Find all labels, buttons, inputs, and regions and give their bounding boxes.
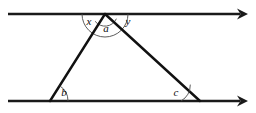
angle-label-y: y <box>125 15 131 27</box>
angle-label-a: a <box>103 22 109 34</box>
geometry-svg: x a y b c <box>0 0 256 113</box>
angle-label-b: b <box>61 86 67 98</box>
angle-label-x: x <box>86 15 92 27</box>
geometry-diagram-canvas: x a y b c <box>0 0 256 113</box>
triangle-left-side <box>50 14 105 101</box>
triangle-right-side <box>105 14 200 101</box>
angle-label-c: c <box>174 86 179 98</box>
